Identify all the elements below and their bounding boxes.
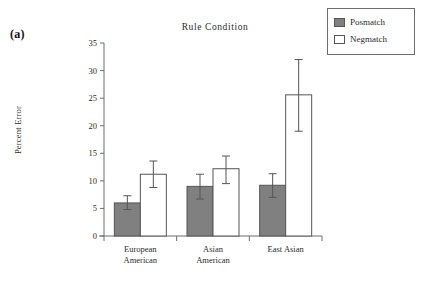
legend-item-posmatch[interactable]: Posmatch: [334, 15, 414, 30]
figure-panel: (a) Rule Condition Percent Error 0510152…: [0, 0, 424, 306]
y-axis-tick-label: 15: [89, 148, 98, 158]
y-axis-tick-label: 5: [93, 203, 97, 213]
x-axis-tick-label: East Asian: [268, 244, 305, 254]
chart-legend: Posmatch Negmatch: [327, 8, 415, 55]
y-axis-tick-label: 35: [89, 38, 98, 48]
y-axis-tick-label: 0: [93, 231, 97, 241]
legend-label-negmatch: Negmatch: [350, 35, 387, 44]
legend-swatch-posmatch: [334, 18, 345, 27]
y-axis-tick-label: 10: [89, 176, 98, 186]
y-axis-tick-label: 25: [89, 93, 98, 103]
x-axis-tick-label: Asian: [203, 244, 224, 254]
y-axis-tick-label: 20: [89, 121, 98, 131]
legend-label-posmatch: Posmatch: [350, 18, 385, 27]
legend-swatch-negmatch: [334, 35, 345, 44]
x-axis-tick-label: European: [124, 244, 157, 254]
x-axis-tick-label: American: [196, 255, 230, 265]
y-axis-tick-label: 30: [89, 66, 98, 76]
legend-item-negmatch[interactable]: Negmatch: [334, 32, 414, 47]
x-axis-tick-label: American: [124, 255, 158, 265]
